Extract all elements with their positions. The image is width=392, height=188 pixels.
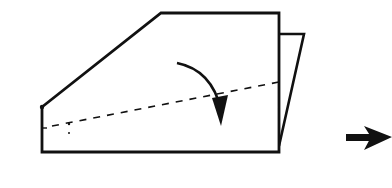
corner-mark: [40, 105, 44, 109]
origami-diagram: [0, 0, 392, 188]
fold-line-dot: [68, 132, 70, 134]
paper-front-layer: [42, 13, 279, 152]
fold-line-dot: [68, 123, 70, 125]
paper-back-flap: [279, 34, 304, 146]
